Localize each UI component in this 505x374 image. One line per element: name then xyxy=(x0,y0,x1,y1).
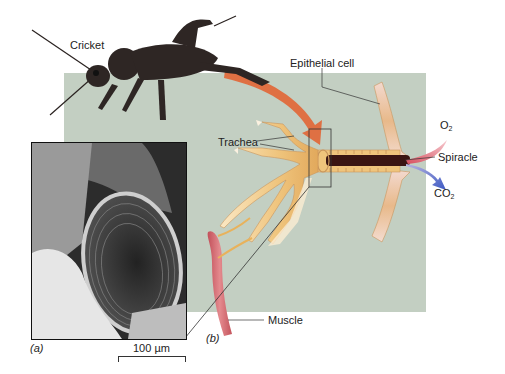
co2-label: CO2 xyxy=(434,188,454,200)
trachea-label: Trachea xyxy=(218,137,258,148)
panel-a-label: (a) xyxy=(30,343,43,354)
zoom-arrow-icon xyxy=(224,70,322,145)
trachea-lumen xyxy=(326,155,410,166)
epithelial-tube-upper xyxy=(374,82,410,160)
spiracle-label: Spiracle xyxy=(438,152,478,163)
panel-b-label: (b) xyxy=(206,333,219,344)
sem-micrograph xyxy=(31,142,187,340)
scale-bar-label: 100 µm xyxy=(133,343,170,354)
cricket-illustration xyxy=(32,16,270,120)
cricket-label: Cricket xyxy=(70,40,104,51)
o2-label: O2 xyxy=(440,120,452,132)
epithelial-tube-lower xyxy=(372,170,410,242)
epithelial-cell-label: Epithelial cell xyxy=(290,58,354,69)
muscle-label: Muscle xyxy=(268,315,303,326)
trachea-figure: Cricket Epithelial cell Trachea Spiracle… xyxy=(0,0,505,374)
scale-bar xyxy=(118,356,186,362)
